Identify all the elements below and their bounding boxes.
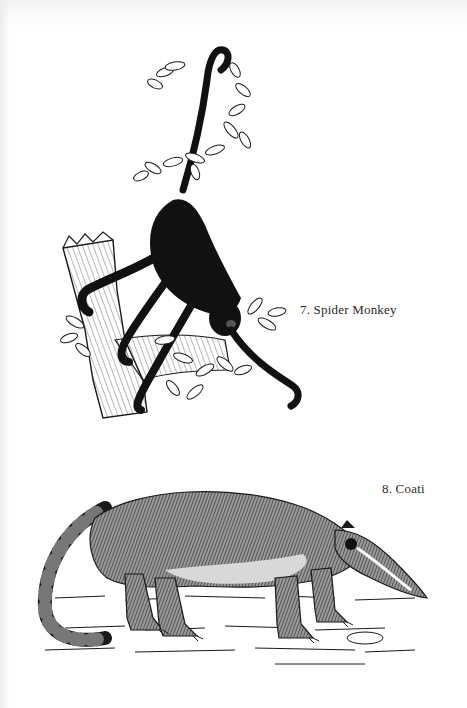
plate-caption-coati: 8. Coati bbox=[382, 481, 425, 497]
plate-caption-spider-monkey: 7. Spider Monkey bbox=[300, 302, 397, 318]
book-page: 7. Spider Monkey bbox=[0, 0, 467, 708]
spider-monkey-illustration bbox=[55, 40, 315, 425]
coati-illustration bbox=[35, 478, 435, 668]
